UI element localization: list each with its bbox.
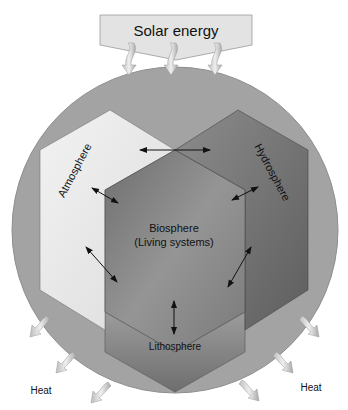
heat-arrow-icon [273,352,293,373]
biosphere-sublabel: (Living systems) [134,236,213,248]
heat-label-left: Heat [30,385,51,396]
heat-label-right: Heat [300,382,321,393]
diagram-canvas: Solar energy Atmosphere Hydrosphere Bios… [0,0,348,410]
biosphere-hexagon [105,150,245,352]
solar-energy-label: Solar energy [133,22,219,39]
biosphere-label: Biosphere [149,222,199,234]
lithosphere-label: Lithosphere [149,341,202,352]
heat-arrow-icon [91,382,111,403]
heat-arrow-icon [239,380,259,401]
heat-arrow-icon [56,352,76,373]
earth-systems-diagram: Solar energy Atmosphere Hydrosphere Bios… [0,0,348,410]
